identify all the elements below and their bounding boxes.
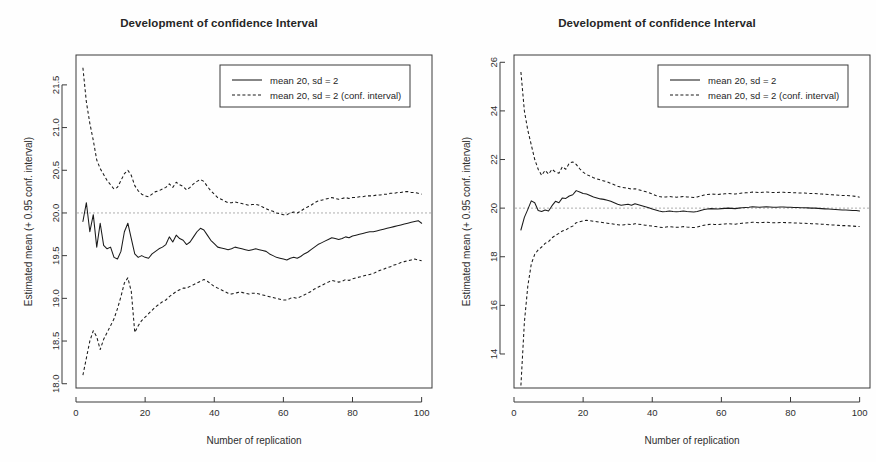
series-line-0 [83,203,422,260]
y-axis-title: Estimated mean (+ 0.95 conf. interval) [461,137,472,306]
right-chart-plot: 020406080100Number of replication1416182… [438,0,876,462]
x-tick-label: 40 [647,407,658,418]
series-line-2 [521,220,860,385]
x-tick-label: 0 [73,407,78,418]
legend-label-conf-interval: mean 20, sd = 2 (conf. interval) [708,90,839,101]
left-chart-plot: 020406080100Number of replication18.018.… [0,0,438,462]
x-tick-label: 20 [578,407,589,418]
y-tick-label: 14 [489,349,500,360]
y-tick-label: 24 [489,106,500,117]
x-tick-label: 80 [785,407,796,418]
legend-box [220,65,410,107]
series-line-0 [521,191,860,230]
x-tick-label: 80 [347,407,358,418]
x-tick-label: 60 [278,407,289,418]
y-tick-label: 18.0 [51,374,62,393]
right-chart-panel: Development of confidence Interval 02040… [438,0,876,462]
left-chart-panel: Development of confidence Interval 02040… [0,0,438,462]
x-axis-title: Number of replication [644,435,739,446]
x-tick-label: 0 [511,407,516,418]
legend-box [658,65,848,107]
x-tick-label: 100 [852,407,868,418]
y-tick-label: 20.0 [51,204,62,223]
x-axis-title: Number of replication [206,435,301,446]
y-tick-label: 19.0 [51,289,62,308]
y-tick-label: 21.0 [51,118,62,137]
legend-label-mean: mean 20, sd = 2 [708,75,776,86]
y-tick-label: 26 [489,57,500,68]
series-line-2 [83,259,422,375]
y-tick-label: 19.5 [51,246,62,265]
y-tick-label: 18 [489,251,500,262]
x-tick-label: 60 [716,407,727,418]
y-tick-label: 20 [489,203,500,214]
y-tick-label: 18.5 [51,332,62,351]
y-axis-title: Estimated mean (+ 0.95 conf. interval) [23,137,34,306]
y-tick-label: 21.5 [51,76,62,95]
y-tick-label: 20.5 [51,161,62,180]
x-tick-label: 40 [209,407,220,418]
y-tick-label: 22 [489,154,500,165]
y-tick-label: 16 [489,300,500,311]
legend-label-mean: mean 20, sd = 2 [270,75,338,86]
x-tick-label: 100 [414,407,430,418]
figure-container: Development of confidence Interval 02040… [0,0,876,462]
legend-label-conf-interval: mean 20, sd = 2 (conf. interval) [270,90,401,101]
x-tick-label: 20 [140,407,151,418]
